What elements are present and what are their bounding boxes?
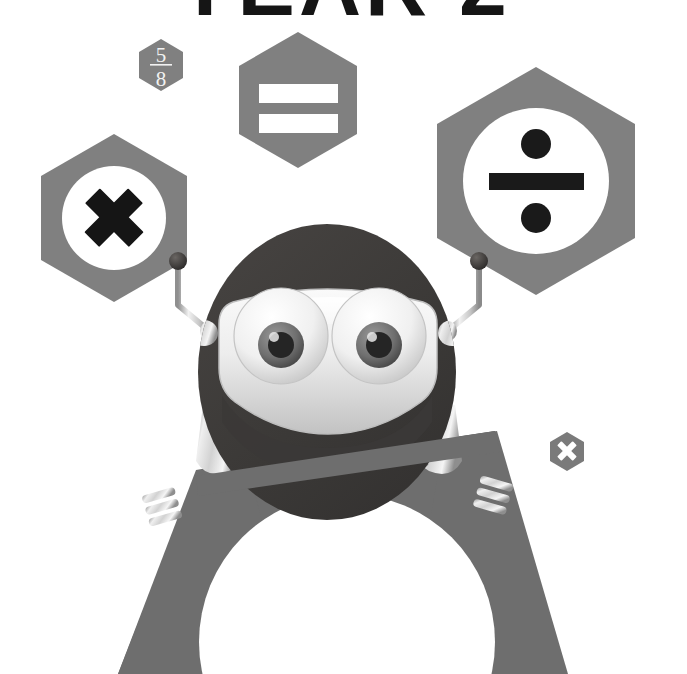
multiply-hexagon [41, 134, 187, 302]
small-multiply-hexagon [550, 432, 584, 471]
right-eye [332, 288, 426, 384]
cover-artwork: 5 8 [0, 0, 687, 674]
equals-hexagon [239, 32, 357, 168]
divide-hexagon [437, 67, 635, 295]
fraction-hexagon: 5 8 [139, 39, 183, 91]
left-eye [234, 288, 328, 384]
right-antenna-ball [470, 252, 488, 270]
left-antenna-ball [169, 252, 187, 270]
book-cover: YEAR 2 [0, 0, 687, 674]
svg-text:5: 5 [156, 43, 167, 67]
svg-text:8: 8 [156, 67, 167, 91]
